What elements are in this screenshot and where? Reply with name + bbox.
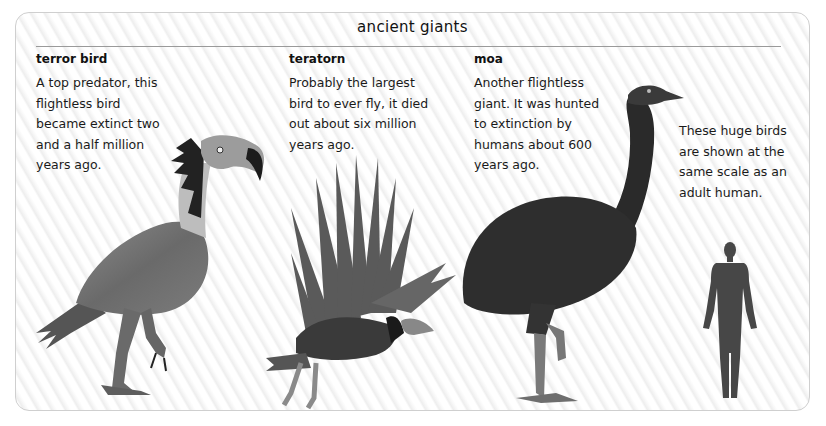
ancient-giants-panel: ancient giants terror bird A top predato… — [15, 12, 810, 411]
human-silhouette-icon — [16, 13, 810, 411]
